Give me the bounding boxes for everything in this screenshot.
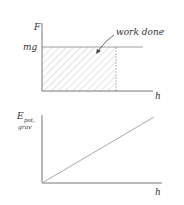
diagram-canvas: F mg work done h E pot, grav h	[0, 0, 184, 205]
y-axis-label-sub2: grav	[18, 123, 32, 131]
x-axis-label: h	[155, 91, 161, 101]
force-height-graph: F mg work done h	[23, 22, 164, 101]
energy-line	[42, 117, 154, 183]
mg-label: mg	[23, 42, 38, 52]
work-done-area	[42, 47, 116, 91]
potential-energy-graph: E pot, grav h	[16, 111, 162, 197]
y-axis-label: F	[33, 22, 41, 32]
x-axis-label: h	[155, 187, 161, 197]
y-axis-label-main: E	[16, 111, 24, 121]
work-done-label: work done	[116, 27, 164, 37]
